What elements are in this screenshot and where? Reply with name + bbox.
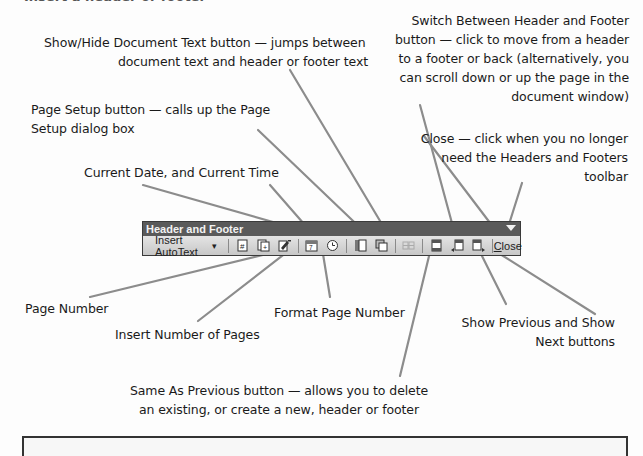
annotation-page-number: Page Number [25, 299, 108, 318]
annotation-line: Close — click when you no longer [400, 129, 628, 148]
annotation-line: Format Page Number [274, 303, 405, 322]
date-icon: 7 [305, 239, 318, 252]
next-section-box [22, 436, 628, 456]
annotation-same-as-previous: Same As Previous button — allows you to … [128, 381, 430, 419]
annotation-line: need the Headers and Footers [400, 148, 628, 167]
format-page-number-icon [278, 239, 291, 252]
annotation-line: Page Setup button — calls up the Page [31, 100, 270, 119]
annotation-line: to a footer or back (alternatively, you [395, 49, 629, 68]
annotation-line: document window) [395, 87, 629, 106]
format-page-number-button[interactable] [276, 237, 293, 254]
insert-page-number-button[interactable]: # [234, 237, 251, 254]
insert-autotext-button[interactable]: Insert AutoText ▾ [149, 237, 223, 254]
toolbar-separator [228, 239, 229, 253]
svg-text:7: 7 [309, 244, 313, 251]
annotation-line: can scroll down or up the page in the [395, 68, 629, 87]
toolbar-separator [395, 239, 396, 253]
toolbar-title: Header and Footer [146, 223, 243, 235]
annotation-format-page-number: Format Page Number [274, 303, 405, 322]
show-previous-button[interactable] [449, 237, 466, 254]
clock-icon [326, 239, 339, 252]
annotation-line: document text and header or footer text [44, 52, 368, 71]
cut-off-heading: Insert a header or footer [24, 0, 206, 4]
svg-text:#: # [240, 242, 245, 251]
show-hide-document-text-button[interactable] [373, 237, 390, 254]
annotation-line: Same As Previous button — allows you to … [128, 381, 430, 400]
annotation-line: Switch Between Header and Footer [395, 11, 629, 30]
toolbar-button-row: Insert AutoText ▾ # + 7 [143, 236, 520, 255]
insert-date-button[interactable]: 7 [303, 237, 320, 254]
toolbar-title-bar[interactable]: Header and Footer [143, 222, 520, 236]
annotation-insert-number-of-pages: Insert Number of Pages [115, 325, 260, 344]
annotation-line: Show Previous and Show [440, 313, 615, 332]
show-next-button[interactable] [470, 237, 487, 254]
annotation-line: Page Number [25, 299, 108, 318]
annotation-show-hide-document-text: Show/Hide Document Text button — jumps b… [44, 33, 368, 71]
svg-text:+: + [263, 244, 267, 251]
toolbar-separator [346, 239, 347, 253]
switch-header-footer-icon [430, 239, 443, 252]
annotation-line: Insert Number of Pages [115, 325, 260, 344]
same-as-previous-button[interactable] [400, 237, 417, 254]
annotation-line: Current Date, and Current Time [84, 163, 279, 182]
toolbar-separator [422, 239, 423, 253]
annotation-date-time: Current Date, and Current Time [84, 163, 279, 182]
close-toolbar-button[interactable]: Close [497, 237, 517, 254]
close-label: lose [502, 240, 522, 252]
toolbar-separator [492, 239, 493, 253]
number-of-pages-icon: + [257, 239, 270, 252]
close-label-mnemonic: C [494, 240, 502, 252]
page-number-icon: # [236, 239, 249, 252]
same-as-previous-icon [402, 239, 415, 252]
show-hide-document-icon [375, 239, 388, 252]
chevron-down-icon: ▾ [212, 241, 217, 251]
annotation-page-setup: Page Setup button — calls up the Page Se… [31, 100, 270, 138]
insert-autotext-label: Insert AutoText [155, 234, 209, 258]
toolbar-options-dropdown-icon[interactable] [506, 225, 516, 231]
annotation-switch-header-footer: Switch Between Header and Footer button … [395, 11, 629, 106]
switch-header-footer-button[interactable] [428, 237, 445, 254]
annotation-line: an existing, or create a new, header or … [128, 400, 430, 419]
insert-number-of-pages-button[interactable]: + [255, 237, 272, 254]
annotation-close: Close — click when you no longer need th… [400, 129, 628, 186]
annotation-line: button — click to move from a header [395, 30, 629, 49]
annotation-line: Setup dialog box [31, 119, 270, 138]
toolbar-separator [298, 239, 299, 253]
annotation-show-previous-next: Show Previous and Show Next buttons [440, 313, 615, 351]
header-and-footer-toolbar: Header and Footer Insert AutoText ▾ # + [142, 221, 521, 256]
page-setup-button[interactable] [352, 237, 369, 254]
page-setup-icon [354, 239, 367, 252]
annotation-line: Show/Hide Document Text button — jumps b… [44, 33, 368, 52]
annotation-line: toolbar [400, 167, 628, 186]
annotation-line: Next buttons [440, 332, 615, 351]
insert-time-button[interactable] [324, 237, 341, 254]
show-next-icon [472, 239, 485, 252]
show-previous-icon [451, 239, 464, 252]
